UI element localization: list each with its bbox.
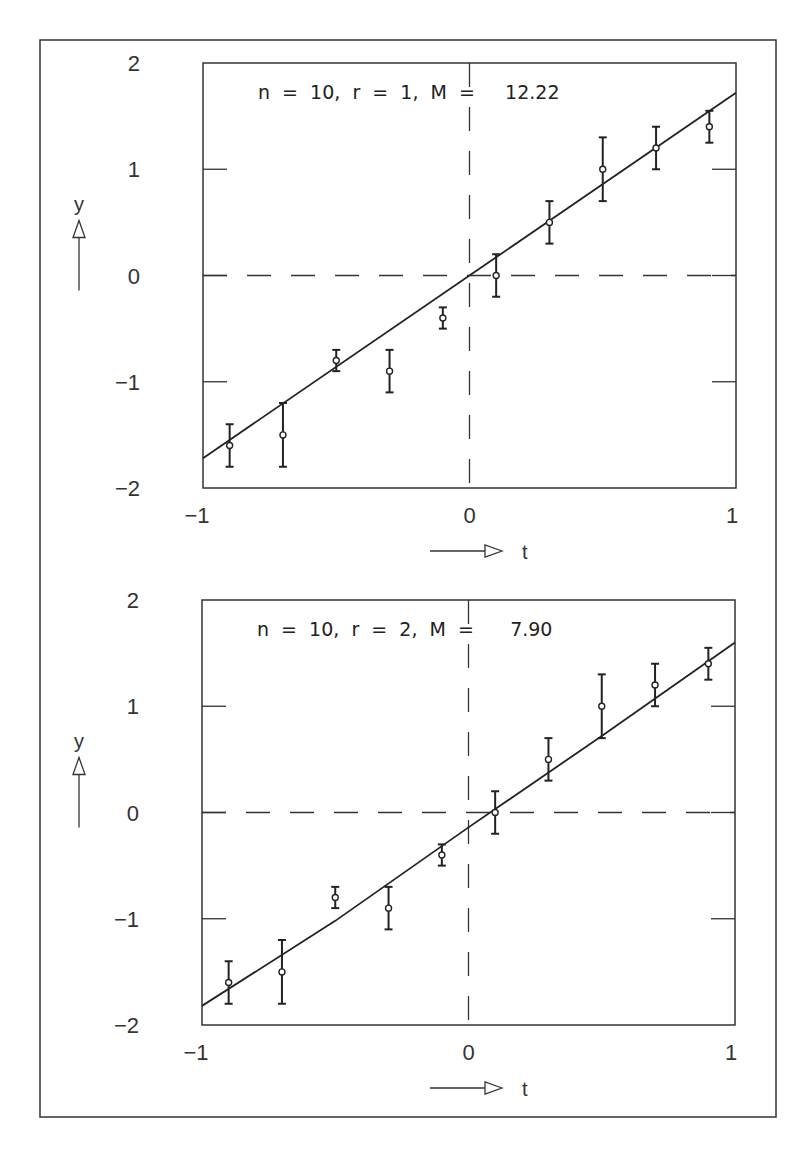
data-point [227,443,233,449]
error-bar [386,350,394,393]
error-bar [385,887,393,930]
data-point [440,315,446,321]
x-tick-label: 0 [463,503,475,528]
chart-panel-bottom: 210−1−2−101n = 10, r = 2, M = 7.90yt [73,588,737,1100]
data-point [600,166,606,172]
data-point [706,124,712,130]
error-bar [225,961,233,1004]
y-tick-label: −2 [114,1013,139,1038]
error-bar [705,111,713,143]
data-point [599,703,605,709]
error-bar [492,254,500,297]
x-axis-label: t [522,1078,528,1100]
x-tick-label: 0 [462,1040,474,1065]
y-axis-label: y [74,730,84,752]
outer-frame [40,40,776,1117]
y-tick-label: 0 [128,264,140,289]
x-tick-label: 1 [725,1040,737,1065]
x-tick-label: −1 [183,1040,208,1065]
x-axis-label: t [522,541,528,563]
error-bar [278,940,286,1004]
y-tick-label: 0 [127,801,139,826]
error-bar [226,424,234,467]
y-axis-arrow-head-icon [73,221,85,238]
y-tick-label: 1 [128,157,140,182]
error-bar [704,648,712,680]
data-point [546,219,552,225]
error-bar [598,674,606,738]
y-axis-label: y [74,193,84,215]
data-point [493,273,499,279]
error-bar [652,127,660,170]
y-axis-arrow-head-icon [73,758,85,775]
data-point [653,145,659,151]
chart-panel-top: 210−1−2−101n = 10, r = 1, M = 12.22yt [73,51,738,563]
data-point [705,661,711,667]
error-bar [545,201,553,244]
x-tick-label: 1 [726,503,738,528]
chart-title: n = 10, r = 2, M = 7.90 [257,618,552,640]
x-tick-label: −1 [184,503,209,528]
x-axis-arrow-head-icon [485,545,502,557]
data-point [439,852,445,858]
chart-title: n = 10, r = 1, M = 12.22 [258,81,560,103]
data-point [492,810,498,816]
data-point [226,980,232,986]
error-bar [439,307,447,328]
y-tick-label: −1 [115,370,140,395]
y-tick-label: −2 [115,476,140,501]
data-point [333,358,339,364]
data-point [652,682,658,688]
y-tick-label: 2 [127,588,139,613]
data-point [279,969,285,975]
error-bar [331,887,339,908]
x-axis-arrow-head-icon [485,1082,502,1094]
data-point [386,905,392,911]
data-point [545,756,551,762]
y-tick-label: 1 [127,694,139,719]
data-point [387,368,393,374]
error-bar [491,791,499,834]
y-tick-label: 2 [128,51,140,76]
error-bar [279,403,287,467]
error-bar [599,137,607,201]
data-point [280,432,286,438]
y-tick-label: −1 [114,907,139,932]
data-point [332,895,338,901]
figure: 210−1−2−101n = 10, r = 1, M = 12.22yt 21… [0,0,806,1153]
